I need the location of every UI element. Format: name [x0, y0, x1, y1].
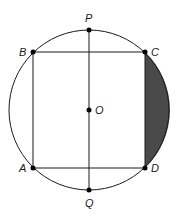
label-q: Q	[85, 197, 94, 209]
point-p	[87, 28, 92, 33]
point-c	[143, 50, 148, 55]
label-b: B	[19, 46, 26, 58]
point-o	[87, 108, 92, 113]
label-a: A	[18, 162, 26, 174]
label-c: C	[151, 46, 159, 58]
label-o: O	[95, 104, 104, 116]
geometry-diagram: P B C O A D Q	[0, 0, 181, 219]
point-q	[87, 188, 92, 193]
label-d: D	[151, 162, 159, 174]
point-d	[143, 166, 148, 171]
point-a	[31, 166, 36, 171]
point-b	[31, 50, 36, 55]
label-p: P	[85, 12, 93, 24]
